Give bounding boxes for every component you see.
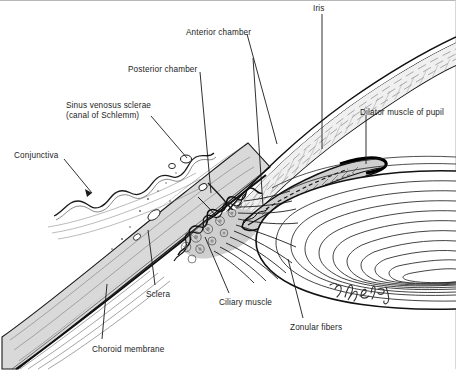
label-anterior-chamber: Anterior chamber	[186, 28, 251, 38]
label-ciliary-muscle: Ciliary muscle	[219, 298, 272, 308]
label-sinus-venosus-sclerae: Sinus venosus sclerae (canal of Schlemm)	[66, 101, 151, 121]
leader-schlemm	[151, 116, 187, 158]
leader-posterior-chamber	[200, 72, 211, 193]
label-zonular-fibers: Zonular fibers	[290, 323, 342, 333]
label-conjunctiva: Conjunctiva	[14, 151, 58, 161]
label-posterior-chamber: Posterior chamber	[128, 65, 197, 75]
label-sclera: Sclera	[146, 290, 170, 300]
eye-anatomy-illustration	[0, 1, 456, 370]
label-dilator-muscle-of-pupil: Dilator muscle of pupil	[360, 108, 444, 118]
leader-anterior-chamber	[247, 34, 277, 144]
leader-conjunctiva	[64, 159, 92, 193]
label-iris: Iris	[313, 4, 325, 14]
leader-arrowhead-conjunctiva	[85, 189, 92, 197]
label-choroid-membrane: Choroid membrane	[92, 345, 164, 355]
